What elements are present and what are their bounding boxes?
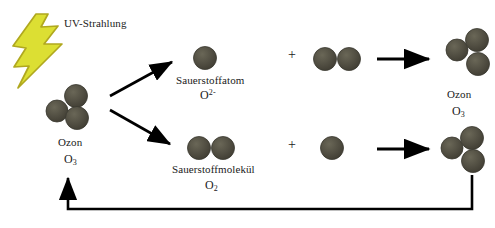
oxygen-molecule-formula-label: O2 xyxy=(205,178,218,193)
split-arrow-lower xyxy=(110,110,170,144)
oxygen-atom-formula-base: O xyxy=(200,88,209,102)
uv-lightning-bolt-icon xyxy=(13,14,62,88)
oxygen-molecule-molecule xyxy=(188,137,235,160)
ozone-product-formula-count: 3 xyxy=(461,110,465,119)
diagram-canvas xyxy=(0,0,495,228)
oxygen-molecule-formula-count: 2 xyxy=(214,184,218,193)
uv-radiation-label: UV-Strahlung xyxy=(64,17,127,29)
oxygen-atom-molecule xyxy=(194,47,217,70)
ozone-source-formula-base: O xyxy=(64,152,73,166)
split-arrow-upper xyxy=(110,62,172,96)
oxygen-atom-name-label: Sauerstoffatom xyxy=(176,74,244,86)
ozone-source-name-label: Ozon xyxy=(58,136,82,148)
ozone-product-name-label: Ozon xyxy=(447,88,471,100)
plus-sign-bottom: + xyxy=(288,138,296,152)
recycle-arrow xyxy=(68,175,472,209)
ozone-product-formula-base: O xyxy=(452,104,461,118)
plus-sign-top: + xyxy=(288,48,296,62)
oxygen-atom-formula-label: O2- xyxy=(200,88,216,103)
ozone-product-top-molecule xyxy=(446,29,490,76)
ozone-source-formula-count: 3 xyxy=(73,158,77,167)
ozone-product-formula-label: O3 xyxy=(452,104,465,119)
reactant-oxygen-atom-bottom xyxy=(321,137,344,160)
ozone-product-bottom-molecule xyxy=(441,127,485,173)
reactant-oxygen-molecule-top xyxy=(314,48,361,71)
ozone-source-molecule xyxy=(46,85,89,130)
oxygen-molecule-formula-base: O xyxy=(205,178,214,192)
oxygen-atom-formula-charge: 2- xyxy=(209,88,216,97)
ozone-cycle-diagram: UV-Strahlung Sauerstoffatom O2- Sauersto… xyxy=(0,0,495,228)
oxygen-molecule-name-label: Sauerstoffmolekül xyxy=(172,163,255,175)
ozone-source-formula-label: O3 xyxy=(64,152,77,167)
